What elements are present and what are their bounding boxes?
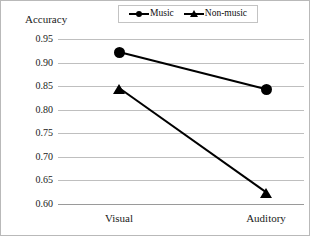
y-tick-label: 0.85 xyxy=(23,80,53,91)
series-line-non-music xyxy=(118,88,266,194)
x-tick-label: Auditory xyxy=(226,212,306,224)
y-tick-label: 0.70 xyxy=(23,151,53,162)
y-tick-label: 0.60 xyxy=(23,198,53,209)
gridline xyxy=(58,110,304,111)
gridline xyxy=(58,180,304,181)
circle-marker-icon xyxy=(129,9,149,19)
gridline xyxy=(58,204,304,205)
legend-entry-music[interactable]: Music xyxy=(129,9,174,19)
y-axis-label: Accuracy xyxy=(25,13,67,25)
chart-legend: MusicNon-music xyxy=(118,5,258,23)
line-chart-figure: Accuracy 0.950.900.850.800.750.700.650.6… xyxy=(0,0,310,236)
y-tick-label: 0.95 xyxy=(23,33,53,44)
gridline xyxy=(58,157,304,158)
data-point-non-music-visual xyxy=(113,84,125,94)
legend-label: Non-music xyxy=(205,9,247,19)
data-point-music-visual xyxy=(114,47,125,58)
gridline xyxy=(58,63,304,64)
legend-entry-non-music[interactable]: Non-music xyxy=(184,9,247,19)
y-tick-label: 0.80 xyxy=(23,104,53,115)
data-point-music-auditory xyxy=(261,84,272,95)
y-tick-label: 0.90 xyxy=(23,57,53,68)
x-tick-label: Visual xyxy=(79,212,159,224)
y-tick-label: 0.75 xyxy=(23,127,53,138)
y-tick-label: 0.65 xyxy=(23,174,53,185)
data-point-non-music-auditory xyxy=(260,188,272,198)
plot-area: Accuracy 0.950.900.850.800.750.700.650.6… xyxy=(1,1,310,236)
legend-label: Music xyxy=(150,9,174,19)
triangle-marker-icon xyxy=(184,9,204,19)
gridline xyxy=(58,39,304,40)
